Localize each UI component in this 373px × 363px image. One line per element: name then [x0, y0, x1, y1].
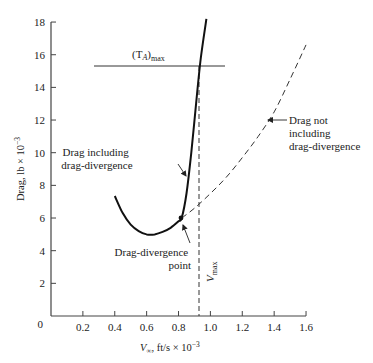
axes: 024681012141618 0.20.40.60.81.01.21.41.6: [34, 16, 313, 333]
y-axis-title: Drag, lb × 10−3: [13, 137, 26, 201]
x-tick-label: 1.6: [299, 321, 313, 333]
y-tick-label: 2: [40, 277, 46, 289]
drag-not-including-label: Drag not including drag-divergence: [289, 114, 360, 152]
drag-vs-velocity-chart: 024681012141618 0.20.40.60.81.01.21.41.6…: [0, 0, 373, 363]
y-tick-label: 4: [40, 245, 46, 257]
y-ticks: 024681012141618: [34, 16, 56, 330]
y-tick-label: 18: [34, 16, 46, 28]
vmax-label: Vmax: [204, 261, 219, 282]
y-tick-label: 12: [34, 114, 45, 126]
thrust-available-max-label: (TA)max: [132, 48, 165, 63]
x-tick-label: 1.4: [267, 321, 281, 333]
x-tick-label: 0.6: [140, 321, 154, 333]
x-ticks: 0.20.40.60.81.01.21.41.6: [76, 311, 313, 333]
x-tick-label: 1.0: [204, 321, 218, 333]
y-tick-label: 8: [40, 179, 46, 191]
drag-divergence-point-arrow: [183, 225, 190, 243]
x-tick-label: 0.8: [172, 321, 186, 333]
y-tick-label: 6: [40, 212, 46, 224]
drag-including-arrow: [178, 164, 186, 176]
drag-divergence-point-marker: [179, 216, 184, 221]
x-tick-label: 0.2: [76, 321, 90, 333]
drag-including-label: Drag including drag-divergence: [61, 146, 132, 171]
drag-including-divergence-curve: [115, 19, 207, 235]
y-tick-label: 14: [34, 81, 46, 93]
x-axis-title: V∞, ft/s × 10−3: [140, 340, 200, 355]
y-tick-label: 16: [34, 49, 46, 61]
x-tick-label: 1.2: [235, 321, 249, 333]
drag-divergence-point-label: Drag-divergence point: [115, 246, 191, 271]
y-tick-label: 0: [38, 318, 44, 330]
x-tick-label: 0.4: [108, 321, 122, 333]
y-tick-label: 10: [34, 147, 46, 159]
